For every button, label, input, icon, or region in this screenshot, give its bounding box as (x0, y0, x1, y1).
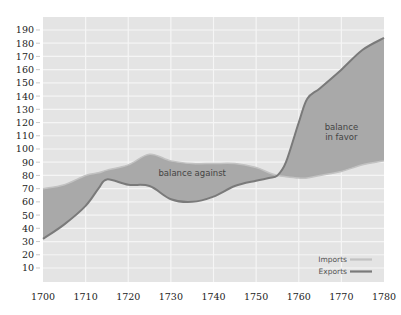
y-tick-label: 50 (22, 210, 34, 221)
y-tick-label: 190 (16, 24, 34, 35)
annotation-label: in favor (325, 132, 358, 142)
x-tick-label: 1760 (287, 291, 311, 302)
annotation-label: balance against (158, 168, 226, 178)
y-tick-label: 20 (22, 249, 34, 260)
y-tick-label: 10 (22, 262, 34, 273)
x-tick-label: 1710 (74, 291, 98, 302)
x-tick-label: 1780 (372, 291, 396, 302)
y-tick-label: 110 (16, 130, 34, 141)
trade-balance-chart: 1020304050607080901001101201301401501601… (0, 0, 401, 315)
y-tick-label: 40 (22, 223, 34, 234)
x-tick-label: 1770 (329, 291, 353, 302)
y-tick-label: 130 (16, 104, 34, 115)
legend-label: Exports (319, 267, 348, 276)
y-tick-label: 80 (22, 170, 34, 181)
y-axis: 1020304050607080901001101201301401501601… (16, 24, 40, 273)
y-tick-label: 30 (22, 236, 34, 247)
y-tick-label: 160 (16, 64, 34, 75)
y-tick-label: 100 (16, 143, 34, 154)
x-tick-label: 1720 (116, 291, 140, 302)
legend-label: Imports (318, 255, 347, 264)
y-tick-label: 170 (16, 51, 34, 62)
y-tick-label: 120 (16, 117, 34, 128)
y-tick-label: 140 (16, 91, 34, 102)
annotation-label: balance (325, 122, 358, 132)
y-tick-label: 70 (22, 183, 34, 194)
x-axis: 170017101720173017401750176017701780 (31, 291, 396, 302)
x-tick-label: 1740 (201, 291, 225, 302)
y-tick-label: 90 (22, 157, 34, 168)
y-tick-label: 180 (16, 38, 34, 49)
x-tick-label: 1750 (244, 291, 268, 302)
y-tick-label: 60 (22, 196, 34, 207)
x-tick-label: 1700 (31, 291, 55, 302)
x-tick-label: 1730 (159, 291, 183, 302)
y-tick-label: 150 (16, 77, 34, 88)
